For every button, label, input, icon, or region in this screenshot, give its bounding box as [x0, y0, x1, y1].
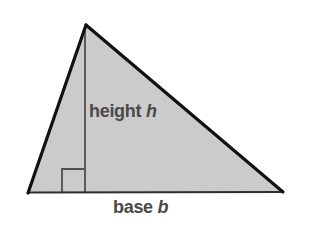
height-variable-symbol: h — [146, 101, 157, 121]
base-label-text: base — [113, 197, 153, 217]
base-label: base b — [113, 197, 168, 217]
triangle-diagram: height h base b — [0, 0, 331, 234]
triangle-base-edge — [28, 192, 283, 193]
base-variable-symbol: b — [158, 197, 169, 217]
height-label-text: height — [89, 101, 141, 121]
height-label: height h — [89, 101, 157, 121]
